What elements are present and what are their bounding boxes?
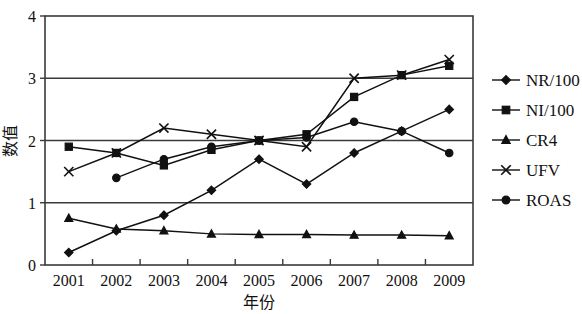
data-series-group [64, 55, 454, 257]
legend-label: NI/100 [526, 101, 574, 120]
x-tick-label: 2001 [53, 272, 85, 289]
x-axis-tick-labels: 200120022003200420052006200720082009 [53, 272, 465, 289]
x-tick-label: 2002 [100, 272, 132, 289]
x-tick-label: 2004 [195, 272, 227, 289]
x-tick-label: 2006 [291, 272, 323, 289]
legend-label: NR/100 [526, 71, 580, 90]
legend-label: UFV [526, 161, 561, 180]
marker-circle [350, 118, 357, 125]
x-tick-label: 2003 [148, 272, 180, 289]
legend-item-nr-100[interactable]: NR/100 [492, 71, 580, 90]
x-axis-title: 年份 [243, 294, 275, 311]
x-tick-label: 2007 [338, 272, 370, 289]
marker-circle [502, 196, 510, 204]
series-cr4 [65, 214, 453, 239]
y-tick-label: 2 [28, 133, 36, 150]
line-chart: 01234 2001200220032004200520062007200820… [0, 0, 582, 314]
y-tick-label: 1 [28, 195, 36, 212]
marker-circle [208, 143, 215, 150]
marker-square [446, 62, 453, 69]
x-tick-label: 2009 [433, 272, 465, 289]
marker-diamond [350, 149, 358, 157]
marker-square [502, 106, 509, 113]
marker-circle [446, 149, 453, 156]
marker-diamond [65, 248, 73, 256]
marker-cross [64, 167, 73, 176]
y-tick-label: 0 [28, 257, 36, 274]
series-path [69, 66, 449, 166]
y-tick-label: 4 [28, 8, 36, 25]
legend-item-roas[interactable]: ROAS [492, 191, 571, 210]
marker-circle [113, 174, 120, 181]
y-axis-ticks: 01234 [28, 8, 45, 274]
marker-square [351, 93, 358, 100]
marker-circle [303, 134, 310, 141]
y-tick-label: 3 [28, 70, 36, 87]
marker-diamond [207, 186, 215, 194]
x-tick-label: 2008 [386, 272, 418, 289]
y-axis-title: 数值 [2, 125, 19, 157]
chart-figure: 01234 2001200220032004200520062007200820… [0, 0, 582, 314]
chart-legend: NR/100NI/100CR4UFVROAS [492, 71, 580, 210]
legend-item-ufv[interactable]: UFV [492, 161, 561, 180]
marker-diamond [160, 211, 168, 219]
marker-circle [160, 155, 167, 162]
marker-diamond [255, 155, 263, 163]
marker-circle [255, 137, 262, 144]
legend-item-cr4[interactable]: CR4 [492, 131, 558, 150]
marker-circle [398, 127, 405, 134]
marker-diamond [445, 105, 453, 113]
x-tick-label: 2005 [243, 272, 275, 289]
marker-diamond [502, 76, 511, 85]
marker-triangle [65, 214, 73, 221]
legend-item-ni-100[interactable]: NI/100 [492, 101, 574, 120]
legend-label: ROAS [526, 191, 571, 210]
x-axis-ticks [93, 259, 426, 265]
marker-diamond [302, 180, 310, 188]
legend-label: CR4 [526, 131, 558, 150]
marker-square [65, 143, 72, 150]
